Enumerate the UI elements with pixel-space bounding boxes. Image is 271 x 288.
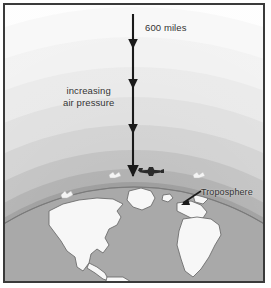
diagram-scene: 600 miles increasing air pressure Tropos…	[5, 5, 263, 281]
atmosphere-layers-svg	[5, 5, 263, 281]
troposphere-label: Troposphere	[201, 187, 253, 198]
figure-frame: 600 miles increasing air pressure Tropos…	[3, 3, 265, 283]
air-pressure-label: increasing air pressure	[63, 85, 114, 109]
air-pressure-label-line1: increasing	[63, 85, 114, 97]
air-pressure-label-line2: air pressure	[63, 97, 114, 109]
altitude-label: 600 miles	[145, 22, 187, 33]
atmosphere-diagram-figure: 600 miles increasing air pressure Tropos…	[0, 0, 271, 288]
